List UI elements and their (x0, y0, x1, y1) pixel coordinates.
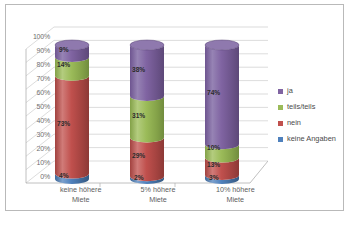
data-label: 31% (132, 112, 145, 119)
legend-item-nein[interactable]: nein (278, 115, 350, 131)
data-label: 38% (132, 66, 145, 73)
legend-item-ja[interactable]: ja (278, 83, 350, 99)
chart-root: 100% 90% 80% 70% 60% 50% 40% 30% 20% 10%… (0, 0, 351, 226)
legend-item-keine-angaben[interactable]: keine Angaben (278, 131, 350, 147)
x-axis-label-2: 5% höhere Miete (119, 185, 196, 215)
data-label: 9% (59, 46, 69, 53)
x-axis-label-line: Miete (119, 195, 196, 205)
data-label: 13% (207, 161, 220, 168)
x-axis-labels: keine höhere Miete 5% höhere Miete 10% h… (42, 185, 274, 215)
x-axis-label-1: keine höhere Miete (42, 185, 119, 215)
legend-swatch-icon (278, 121, 283, 126)
legend: ja teils/teils nein keine Angaben (278, 83, 350, 147)
x-axis-label-line: 10% höhere (197, 185, 274, 195)
legend-item-teils-teils[interactable]: teils/teils (278, 99, 350, 115)
data-label: 73% (57, 120, 70, 127)
x-axis-label-line: Miete (197, 195, 274, 205)
plot-svg (18, 11, 268, 187)
data-label: 2% (134, 174, 144, 181)
legend-label: keine Angaben (287, 135, 336, 143)
x-axis-label-line: Miete (42, 195, 119, 205)
legend-swatch-icon (278, 105, 283, 110)
data-label: 10% (207, 144, 220, 151)
legend-label: teils/teils (287, 103, 315, 111)
plot-area: 9% 14% 73% 4% 38% 31% 29% 2% 74% 10% 13%… (18, 11, 268, 181)
x-axis-label-line: keine höhere (42, 185, 119, 195)
data-label: 14% (57, 61, 70, 68)
data-label: 29% (132, 152, 145, 159)
legend-swatch-icon (278, 89, 283, 94)
data-label: 3% (209, 174, 219, 181)
data-label: 74% (207, 89, 220, 96)
x-axis-label-line: 5% höhere (119, 185, 196, 195)
chart-frame: 100% 90% 80% 70% 60% 50% 40% 30% 20% 10%… (5, 4, 344, 211)
legend-label: ja (287, 87, 293, 95)
legend-swatch-icon (278, 137, 283, 142)
x-axis-label-3: 10% höhere Miete (197, 185, 274, 215)
legend-label: nein (287, 119, 301, 127)
data-label: 4% (59, 172, 69, 179)
